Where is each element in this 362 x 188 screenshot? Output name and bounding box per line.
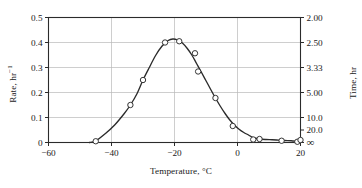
y-left-tick-label: 0.1 — [31, 113, 43, 123]
y-right-tick-label: 20.0 — [307, 125, 323, 135]
y-right-axis-tick-labels: 2.002.503.335.0010.020.0∞ — [307, 13, 323, 149]
y-right-tick-label: 3.33 — [307, 63, 323, 73]
data-point-marker — [192, 51, 197, 56]
y-left-axis-title: Rate, hr−1 — [6, 41, 18, 127]
x-axis-tick-labels: −60−40−20020 — [41, 148, 305, 158]
y-right-tick-label: 10.0 — [307, 113, 323, 123]
data-point-marker — [230, 123, 235, 128]
x-axis-title: Temperature, °C — [0, 166, 362, 176]
y-left-tick-label: 0.4 — [31, 38, 43, 48]
y-right-tick-label: 5.00 — [307, 88, 323, 98]
data-point-marker — [257, 136, 262, 141]
y-left-tick-label: 0.3 — [31, 63, 43, 73]
y-right-axis-title: Time, hr — [348, 40, 358, 126]
x-tick-label: −60 — [41, 148, 56, 158]
data-point-marker — [93, 139, 98, 144]
rate-temperature-plot: −60−40−20020 00.10.20.30.40.5 2.002.503.… — [0, 0, 362, 188]
gridlines — [49, 18, 301, 143]
data-point-marker — [298, 137, 303, 142]
data-point-markers — [93, 39, 303, 145]
y-right-tick-label: ∞ — [307, 136, 315, 148]
y-right-tick-label: 2.00 — [307, 13, 323, 23]
y-left-tick-label: 0 — [38, 138, 43, 148]
data-point-marker — [213, 95, 218, 100]
chart-figure: −60−40−20020 00.10.20.30.40.5 2.002.503.… — [0, 0, 362, 188]
y-left-axis-title-exponent: −1 — [6, 65, 14, 73]
data-point-marker — [128, 102, 133, 107]
data-point-marker — [140, 77, 145, 82]
y-left-axis-tick-labels: 00.10.20.30.40.5 — [31, 13, 43, 148]
data-point-marker — [279, 138, 284, 143]
data-point-marker — [177, 39, 182, 44]
x-tick-label: −40 — [104, 148, 119, 158]
x-tick-label: 0 — [235, 148, 240, 158]
x-tick-label: −20 — [167, 148, 182, 158]
data-point-marker — [195, 69, 200, 74]
y-left-axis-title-text: Rate, hr — [8, 73, 18, 103]
x-tick-label: 20 — [296, 148, 306, 158]
y-left-tick-label: 0.2 — [31, 88, 43, 98]
y-left-tick-label: 0.5 — [31, 13, 43, 23]
y-right-tick-label: 2.50 — [307, 38, 323, 48]
data-point-marker — [162, 40, 167, 45]
data-point-marker — [251, 137, 256, 142]
